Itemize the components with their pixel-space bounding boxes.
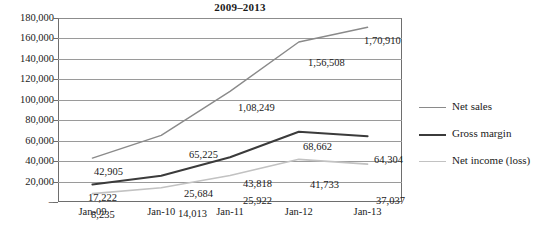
y-tick-label: 80,000 — [0, 115, 54, 125]
y-axis: 180,000160,000140,000120,000100,00080,00… — [0, 18, 54, 202]
data-point-label: 1,56,508 — [308, 57, 345, 68]
y-tick-label: – — [0, 197, 54, 207]
legend-label: Gross margin — [452, 127, 511, 139]
data-point-label: 14,013 — [178, 208, 207, 219]
series-line — [92, 132, 367, 185]
series-line — [92, 27, 367, 158]
data-point-label: 37,037 — [376, 195, 405, 206]
y-tick-label: 160,000 — [0, 33, 54, 43]
x-tick-label: Jan-11 — [198, 206, 262, 217]
x-tick-label: Jan-13 — [336, 206, 400, 217]
y-tick-label: 60,000 — [0, 136, 54, 146]
x-tick-label: Jan-12 — [267, 206, 331, 217]
data-point-label: 65,225 — [189, 149, 218, 160]
legend-line-swatch — [419, 161, 446, 162]
y-tick-mark — [53, 202, 58, 203]
legend-line-swatch — [419, 134, 446, 136]
y-tick-label: 100,000 — [0, 95, 54, 105]
data-point-label: 43,818 — [243, 178, 272, 189]
y-tick-label: 120,000 — [0, 74, 54, 84]
chart-legend: Net salesGross marginNet income (loss) — [419, 100, 544, 181]
data-point-label: 42,905 — [94, 166, 123, 177]
legend-item[interactable]: Net income (loss) — [419, 154, 544, 181]
data-point-label: 25,684 — [184, 188, 213, 199]
data-point-label: 68,662 — [303, 141, 332, 152]
legend-item[interactable]: Gross margin — [419, 127, 544, 154]
legend-item[interactable]: Net sales — [419, 100, 544, 127]
data-point-label: 1,70,910 — [364, 35, 401, 46]
y-tick-label: 20,000 — [0, 177, 54, 187]
chart-figure: 2009–2013 180,000160,000140,000120,00010… — [0, 0, 544, 237]
chart-title: 2009–2013 — [150, 1, 330, 13]
y-tick-label: 40,000 — [0, 156, 54, 166]
data-point-label: 25,922 — [243, 195, 272, 206]
data-point-label: 64,304 — [374, 154, 403, 165]
data-point-label: 8,235 — [91, 209, 115, 220]
legend-line-swatch — [419, 107, 446, 108]
y-tick-label: 180,000 — [0, 13, 54, 23]
y-tick-label: 140,000 — [0, 54, 54, 64]
data-point-label: 1,08,249 — [238, 102, 275, 113]
legend-label: Net income (loss) — [452, 154, 530, 166]
data-point-label: 17,222 — [88, 192, 117, 203]
legend-label: Net sales — [452, 100, 492, 112]
data-point-label: 41,733 — [310, 179, 339, 190]
